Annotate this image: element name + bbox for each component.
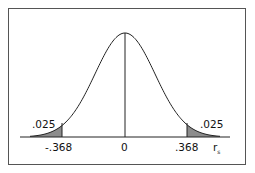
axis-variable-label: rs (213, 142, 220, 155)
tick-label-right: .368 (175, 142, 198, 153)
tick-label-left: -.368 (45, 142, 72, 153)
right-tail-area-label: .025 (200, 119, 223, 130)
left-tail-area-label: .025 (32, 119, 55, 130)
tick-label-center: 0 (121, 142, 128, 153)
